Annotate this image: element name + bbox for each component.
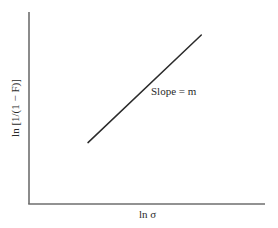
x-axis-label: ln σ	[139, 209, 156, 220]
chart-canvas	[0, 0, 278, 228]
slope-annotation: Slope = m	[151, 86, 196, 97]
y-axis-label: ln [1/(1 − F)]	[10, 79, 21, 137]
